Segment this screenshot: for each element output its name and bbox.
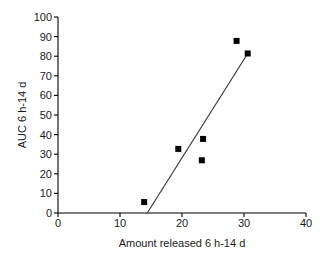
scatter-plot-figure: AUC 6 h-14 d 100 90 80 70 60 50 40 30 20… xyxy=(0,0,326,269)
trendline xyxy=(147,53,247,213)
axis-lines xyxy=(58,17,306,213)
data-point xyxy=(175,146,181,152)
data-point xyxy=(200,136,206,142)
y-tick-marks xyxy=(54,17,58,213)
data-point xyxy=(141,199,147,205)
data-point xyxy=(245,50,251,56)
trendline-segment xyxy=(147,53,247,213)
plot-canvas xyxy=(0,0,326,269)
x-tick-marks xyxy=(58,213,306,217)
data-point-group xyxy=(141,38,251,205)
data-point xyxy=(199,157,205,163)
data-point xyxy=(234,38,240,44)
